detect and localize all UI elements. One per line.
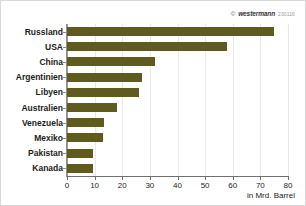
copyright-symbol: ©	[231, 11, 235, 17]
x-tick-40	[178, 176, 179, 180]
x-tick-50	[205, 176, 206, 180]
gridline-80	[288, 24, 289, 176]
bar-row	[67, 130, 288, 145]
x-tick-30	[150, 176, 151, 180]
bar-russland	[67, 27, 274, 36]
catalog-code: 230116	[278, 11, 295, 17]
x-tick-label-50: 50	[201, 181, 210, 190]
x-tick-label-10: 10	[90, 181, 99, 190]
category-label-venezuela: Venezuela	[22, 115, 63, 130]
category-label-kanada: Kanada	[32, 161, 63, 176]
publisher-name: westermann	[238, 10, 275, 17]
bar-row	[67, 85, 288, 100]
chart-figure: © westermann 230116 RusslandUSAChinaArge…	[0, 0, 306, 206]
x-tick-label-0: 0	[65, 181, 69, 190]
bar-australien	[67, 103, 117, 112]
bar-libyen	[67, 88, 139, 97]
bar-row	[67, 24, 288, 39]
category-label-argentinien: Argentinien	[16, 70, 63, 85]
category-label-china: China	[39, 54, 63, 69]
bar-row	[67, 39, 288, 54]
bar-row	[67, 146, 288, 161]
x-axis-title: in Mrd. Barrel	[247, 191, 295, 200]
category-label-libyen: Libyen	[36, 85, 63, 100]
bar-kanada	[67, 164, 93, 173]
bar-row	[67, 161, 288, 176]
bar-row	[67, 54, 288, 69]
category-label-mexiko: Mexiko	[34, 130, 63, 145]
bar-mexiko	[67, 133, 103, 142]
x-tick-label-80: 80	[284, 181, 293, 190]
x-tick-10	[95, 176, 96, 180]
x-tick-70	[260, 176, 261, 180]
bar-series	[67, 24, 288, 176]
bar-pakistan	[67, 149, 93, 158]
bar-china	[67, 57, 155, 66]
x-tick-20	[122, 176, 123, 180]
x-axis-ticks	[67, 176, 288, 180]
bar-usa	[67, 42, 227, 51]
category-axis-labels: RusslandUSAChinaArgentinienLibyenAustral…	[1, 24, 63, 176]
category-label-pakistan: Pakistan	[28, 146, 63, 161]
bar-row	[67, 70, 288, 85]
x-tick-0	[67, 176, 68, 180]
x-tick-80	[288, 176, 289, 180]
category-label-australien: Australien	[21, 100, 63, 115]
x-tick-label-60: 60	[228, 181, 237, 190]
x-tick-60	[233, 176, 234, 180]
x-tick-label-20: 20	[118, 181, 127, 190]
category-label-russland: Russland	[25, 24, 63, 39]
bar-row	[67, 115, 288, 130]
x-tick-label-70: 70	[256, 181, 265, 190]
bar-venezuela	[67, 118, 104, 127]
x-tick-label-30: 30	[145, 181, 154, 190]
copyright-credit: © westermann 230116	[231, 10, 295, 17]
bar-row	[67, 100, 288, 115]
category-label-usa: USA	[45, 39, 63, 54]
bar-argentinien	[67, 73, 142, 82]
plot-area	[67, 24, 288, 176]
x-tick-label-40: 40	[173, 181, 182, 190]
